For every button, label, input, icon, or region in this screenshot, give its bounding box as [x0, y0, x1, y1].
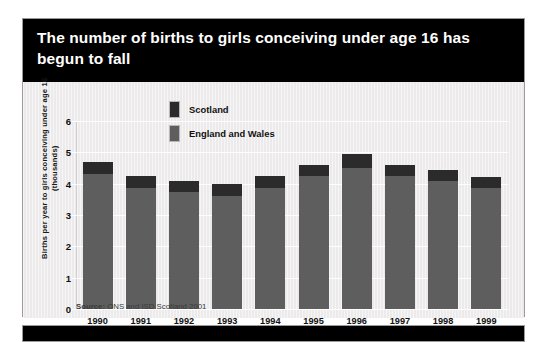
bar-segment-england-and-wales [126, 188, 156, 309]
bar-group: 1994 [255, 121, 285, 309]
stacked-bar [126, 176, 156, 309]
bar-group: 1997 [385, 121, 415, 309]
stacked-bar [471, 177, 501, 309]
stacked-bar [299, 165, 329, 309]
bar-group: 1999 [471, 121, 501, 309]
bar-group: 1990 [83, 121, 113, 309]
bar-segment-england-and-wales [385, 176, 415, 309]
bar-segment-england-and-wales [212, 196, 242, 309]
bar-segment-england-and-wales [428, 181, 458, 309]
legend-item: England and Wales [169, 125, 275, 142]
stacked-bar [428, 170, 458, 309]
y-axis-tick-label: 6 [66, 116, 71, 127]
legend-swatch-icon [169, 125, 180, 142]
bar-segment-scotland [83, 162, 113, 175]
page-title: The number of births to girls conceiving… [37, 27, 510, 70]
bar-segment-scotland [385, 165, 415, 176]
bar-group: 1992 [169, 121, 199, 309]
y-axis-tick-label: 5 [66, 147, 71, 158]
bar-group: 1996 [342, 121, 372, 309]
bar-segment-scotland [212, 184, 242, 197]
bar-segment-scotland [299, 165, 329, 176]
bar-segment-england-and-wales [299, 176, 329, 309]
stacked-bar [169, 181, 199, 309]
bar-group: 1993 [212, 121, 242, 309]
plot-region: Births per year to girls conceiving unde… [23, 82, 524, 318]
stacked-bar [83, 162, 113, 309]
legend: ScotlandEngland and Wales [169, 101, 275, 149]
bar-segment-england-and-wales [83, 174, 113, 309]
bar-group: 1995 [299, 121, 329, 309]
stacked-bar [212, 184, 242, 309]
bottom-black-band [22, 325, 525, 342]
y-axis-tick-label: 1 [66, 272, 71, 283]
bar-segment-england-and-wales [255, 188, 285, 309]
bar-segment-england-and-wales [342, 168, 372, 309]
stacked-bar [385, 165, 415, 309]
bar-segment-england-and-wales [169, 192, 199, 310]
bar-series-group: 1990199119921993199419951996199719981999 [76, 121, 508, 309]
bar-segment-england-and-wales [471, 188, 501, 309]
legend-item-label: Scotland [189, 104, 229, 115]
source-note: Source: ONS and ISD Scotland 2001 [76, 302, 206, 311]
source-prefix: Source: [76, 302, 105, 311]
bar-segment-scotland [428, 170, 458, 181]
bar-segment-scotland [255, 176, 285, 189]
y-axis-tick-label: 0 [66, 304, 71, 315]
bar-segment-scotland [126, 176, 156, 189]
bar-group: 1998 [428, 121, 458, 309]
y-axis-tick-label: 4 [66, 178, 71, 189]
y-axis-tick-label: 3 [66, 210, 71, 221]
y-axis-label: Births per year to girls conceiving unde… [40, 73, 61, 263]
figure-panel: The number of births to girls conceiving… [22, 18, 525, 317]
plot-area: 0123456 19901991199219931994199519961997… [76, 121, 508, 309]
legend-item-label: England and Wales [189, 128, 275, 139]
stacked-bar [255, 176, 285, 309]
bar-segment-scotland [471, 177, 501, 188]
stacked-bar [342, 154, 372, 309]
bar-segment-scotland [169, 181, 199, 192]
legend-item: Scotland [169, 101, 275, 118]
legend-swatch-icon [169, 101, 180, 118]
y-axis-tick-label: 2 [66, 241, 71, 252]
title-band: The number of births to girls conceiving… [23, 19, 524, 82]
bar-group: 1991 [126, 121, 156, 309]
bar-segment-scotland [342, 154, 372, 168]
